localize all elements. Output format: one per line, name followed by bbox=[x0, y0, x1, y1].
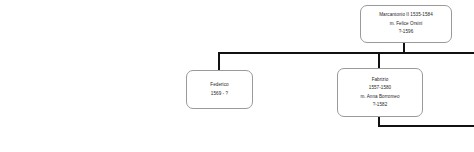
node-fabrizio[interactable]: Fabrizio 1557-1580 m. Anna Borromeo ?-15… bbox=[337, 68, 423, 117]
family-tree-diagram: Marcantonio II 1535-1584 m. Felice Orsin… bbox=[0, 0, 474, 152]
node-marcantonio-name: Marcantonio II 1535-1584 bbox=[361, 11, 451, 19]
node-federico[interactable]: Federico 1569 - ? bbox=[186, 70, 253, 109]
connector-drop-to-fabrizio bbox=[378, 52, 380, 68]
node-marcantonio-spouse: m. Felice Orsini bbox=[361, 20, 451, 28]
node-federico-dates: 1569 - ? bbox=[187, 90, 252, 98]
node-fabrizio-dates: 1557-1580 bbox=[338, 84, 422, 92]
connector-drop-to-federico bbox=[218, 52, 220, 70]
connector-sibling-bus bbox=[218, 52, 474, 54]
node-marcantonio-dates: ?-1596 bbox=[361, 28, 451, 36]
node-fabrizio-name: Fabrizio bbox=[338, 76, 422, 84]
node-fabrizio-spouse-dates: ?-1582 bbox=[338, 101, 422, 109]
node-fabrizio-spouse: m. Anna Borromeo bbox=[338, 93, 422, 101]
connector-fabrizio-child-bus bbox=[378, 125, 474, 127]
node-marcantonio[interactable]: Marcantonio II 1535-1584 m. Felice Orsin… bbox=[360, 5, 452, 43]
node-federico-name: Federico bbox=[187, 81, 252, 89]
